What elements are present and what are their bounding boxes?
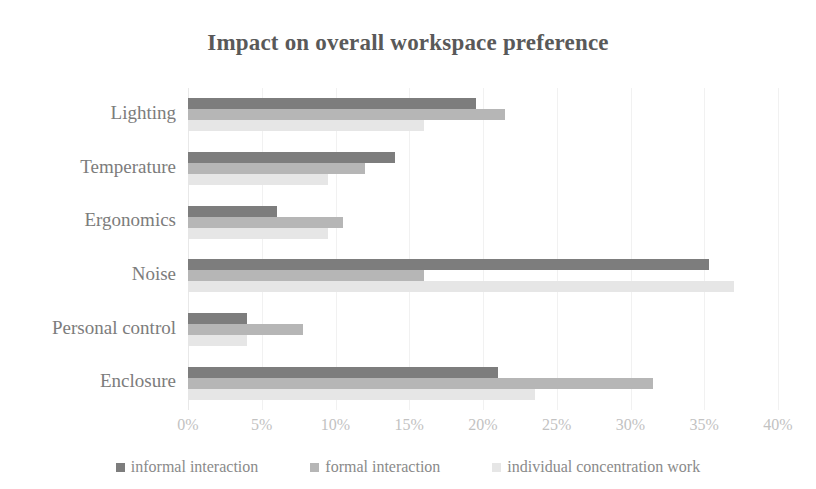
category-label: Noise <box>10 263 188 285</box>
category-label: Enclosure <box>10 370 188 392</box>
legend-swatch-icon <box>492 463 501 472</box>
category-axis-labels: LightingTemperatureErgonomicsNoisePerson… <box>0 88 188 410</box>
legend-swatch-icon <box>310 463 319 472</box>
category-label: Lighting <box>10 102 188 124</box>
bar <box>188 120 424 131</box>
bar-chart: Impact on overall workspace preference L… <box>0 0 816 489</box>
bar <box>188 98 476 109</box>
x-axis-tick-label: 40% <box>763 416 792 434</box>
bar-group <box>188 367 778 405</box>
category-label: Personal control <box>10 317 188 339</box>
bar <box>188 281 734 292</box>
bar <box>188 228 328 239</box>
bar-group <box>188 206 778 244</box>
bar <box>188 206 277 217</box>
bar <box>188 335 247 346</box>
bar-group <box>188 152 778 190</box>
bar <box>188 109 505 120</box>
x-axis-tick-label: 0% <box>177 416 198 434</box>
bar-group <box>188 313 778 351</box>
x-axis-tick-label: 5% <box>251 416 272 434</box>
x-axis-tick-label: 20% <box>468 416 497 434</box>
legend-swatch-icon <box>116 463 125 472</box>
bar-group <box>188 259 778 297</box>
legend-item[interactable]: formal interaction <box>310 458 440 476</box>
plot-area <box>188 88 778 410</box>
legend-item[interactable]: informal interaction <box>116 458 259 476</box>
category-label: Ergonomics <box>10 209 188 231</box>
bar <box>188 217 343 228</box>
bar <box>188 259 709 270</box>
bar <box>188 389 535 400</box>
bar <box>188 324 303 335</box>
legend-label: individual concentration work <box>507 458 700 476</box>
legend-label: informal interaction <box>131 458 259 476</box>
bar <box>188 313 247 324</box>
chart-legend: informal interactionformal interactionin… <box>0 458 816 476</box>
bar <box>188 378 653 389</box>
x-axis-tick-label: 10% <box>321 416 350 434</box>
bar <box>188 270 424 281</box>
x-axis-tick-label: 35% <box>690 416 719 434</box>
value-axis-labels: 0%5%10%15%20%25%30%35%40% <box>188 416 778 442</box>
legend-label: formal interaction <box>325 458 440 476</box>
bar <box>188 367 498 378</box>
gridline-40% <box>778 88 779 410</box>
category-label: Temperature <box>10 156 188 178</box>
x-axis-tick-label: 25% <box>542 416 571 434</box>
bar-group <box>188 98 778 136</box>
x-axis-tick-label: 30% <box>616 416 645 434</box>
chart-title: Impact on overall workspace preference <box>0 30 816 56</box>
bar <box>188 174 328 185</box>
bar <box>188 163 365 174</box>
x-axis-tick-label: 15% <box>395 416 424 434</box>
legend-item[interactable]: individual concentration work <box>492 458 700 476</box>
bar <box>188 152 395 163</box>
